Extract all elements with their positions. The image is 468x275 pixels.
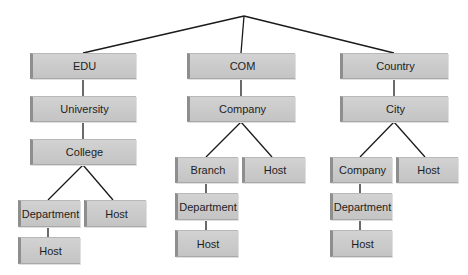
node-college: College: [30, 139, 136, 165]
node-com-host: Host: [242, 157, 305, 183]
node-city-company-department-host: Host: [330, 230, 392, 257]
node-city-company: Company: [330, 157, 392, 183]
node-branch-department-host: Host: [175, 230, 238, 257]
node-city: City: [340, 96, 448, 122]
node-branch-department: Department: [175, 193, 238, 220]
node-edu: EDU: [30, 53, 136, 79]
node-branch: Branch: [175, 157, 238, 183]
node-university: University: [30, 96, 136, 122]
node-city-host: Host: [396, 157, 458, 183]
node-com: COM: [187, 53, 295, 79]
node-edu-department: Department: [18, 200, 80, 227]
node-edu-host: Host: [84, 200, 146, 227]
node-country: Country: [340, 53, 448, 79]
domain-hierarchy-diagram: EDU University College Department Host H…: [0, 0, 468, 275]
node-company: Company: [187, 96, 295, 122]
node-city-company-department: Department: [330, 193, 392, 220]
node-edu-department-host: Host: [18, 237, 80, 264]
